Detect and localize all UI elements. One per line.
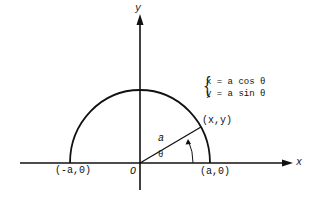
- y-axis-arrow-icon: [137, 14, 144, 25]
- diagram-canvas: [0, 0, 315, 199]
- x-axis-label: x: [296, 158, 302, 168]
- point-label-xy: (x,y): [202, 116, 232, 126]
- angle-label: θ: [158, 151, 163, 160]
- radius-line: [140, 127, 201, 163]
- parametric-equations: x = a cos θ y = a sin θ: [206, 76, 265, 100]
- point-label-pos-a: (a,0): [200, 167, 230, 177]
- radius-label: a: [158, 134, 164, 144]
- y-axis-label: y: [135, 4, 141, 14]
- angle-arc: [189, 141, 194, 163]
- angle-arrow-icon: [186, 139, 192, 145]
- equation-y: y = a sin θ: [206, 88, 265, 100]
- equation-x: x = a cos θ: [206, 76, 265, 88]
- point-label-neg-a: (-a,0): [55, 166, 91, 176]
- x-axis-arrow-icon: [282, 160, 293, 167]
- origin-label: O: [130, 167, 136, 177]
